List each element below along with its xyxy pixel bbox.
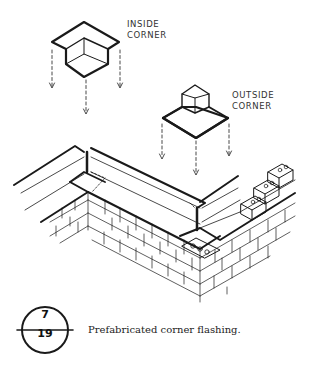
outside-corner-flashing xyxy=(160,85,232,175)
figure-number: 7 xyxy=(25,308,65,321)
inside-corner-label: INSIDE CORNER xyxy=(127,19,167,41)
outside-corner-label-line2: CORNER xyxy=(232,101,274,112)
outside-corner-label-line1: OUTSIDE xyxy=(232,90,274,101)
figure-caption: Prefabricated corner flashing. xyxy=(88,324,241,335)
inside-corner-label-line2: CORNER xyxy=(127,30,167,41)
inside-corner-label-line1: INSIDE xyxy=(127,19,167,30)
wall-assembly xyxy=(14,146,295,302)
inside-corner-flashing xyxy=(50,22,123,114)
sheet-number: 19 xyxy=(25,327,65,340)
outside-corner-label: OUTSIDE CORNER xyxy=(232,90,274,112)
